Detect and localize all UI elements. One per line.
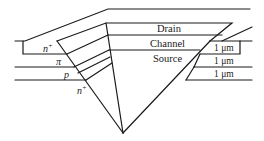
thickness-label-1: 1 μm xyxy=(214,43,234,53)
drain-label: Drain xyxy=(157,23,182,34)
p-label: p xyxy=(63,69,69,80)
right-layer-line-2 xyxy=(194,54,200,67)
v-groove-diagram: Drain Channel Source n+ π p n+ 1 μm 1 μm… xyxy=(0,0,264,141)
source-label: Source xyxy=(153,53,182,64)
wall-line-2 xyxy=(74,50,109,67)
groove-inner-edge xyxy=(106,23,123,133)
thickness-label-3: 1 μm xyxy=(214,69,234,79)
wall-line-1 xyxy=(67,35,108,54)
groove-top-edge xyxy=(57,23,232,41)
thickness-label-2: 1 μm xyxy=(214,56,234,66)
channel-label: Channel xyxy=(150,38,185,49)
groove-left-arm xyxy=(57,41,123,133)
wall-line-4 xyxy=(86,63,112,80)
right-layer-line-3 xyxy=(186,67,194,80)
n-plus-bottom-label: n+ xyxy=(77,84,87,96)
pi-label: π xyxy=(56,56,62,67)
wall-line-3 xyxy=(78,57,110,73)
right-back-slant xyxy=(222,27,252,41)
n-plus-top-label: n+ xyxy=(43,42,53,54)
top-surface-outline xyxy=(15,9,250,41)
